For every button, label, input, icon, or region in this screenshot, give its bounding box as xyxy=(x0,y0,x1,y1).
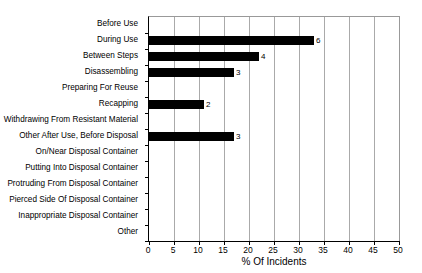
category-label: Recapping xyxy=(99,96,138,112)
x-axis-title: % Of Incidents xyxy=(148,256,400,267)
category-label: Withdrawing From Resistant Material xyxy=(4,112,138,128)
x-axis-tick-label: 20 xyxy=(243,244,252,256)
bar xyxy=(149,36,314,45)
x-axis-tick-label: 25 xyxy=(268,244,277,256)
bar xyxy=(149,100,204,109)
bar xyxy=(149,132,234,141)
bar-row xyxy=(149,161,399,177)
bar-row xyxy=(149,209,399,225)
x-axis-tick-label: 35 xyxy=(318,244,327,256)
x-axis-tick-label: 10 xyxy=(193,244,202,256)
category-label: During Use xyxy=(97,32,138,48)
bar-value-label: 3 xyxy=(236,66,240,79)
x-axis-tick-label: 45 xyxy=(368,244,377,256)
bar-value-label: 4 xyxy=(261,50,265,63)
category-label: Pierced Side Of Disposal Container xyxy=(9,192,138,208)
category-label: Preparing For Reuse xyxy=(62,80,138,96)
category-label: Putting Into Disposal Container xyxy=(25,160,138,176)
bar-row: 2 xyxy=(149,97,399,113)
bar-row xyxy=(149,113,399,129)
category-label: Inappropriate Disposal Container xyxy=(18,208,138,224)
bar-row: 4 xyxy=(149,49,399,65)
bar-value-label: 6 xyxy=(316,34,320,47)
bar-row xyxy=(149,17,399,33)
category-label: On/Near Disposal Container xyxy=(36,144,138,160)
plot-area: 64323 xyxy=(148,16,400,242)
bar-row: 3 xyxy=(149,65,399,81)
x-axis-tick-label: 40 xyxy=(343,244,352,256)
bar xyxy=(149,52,259,61)
x-axis-tick-label: 30 xyxy=(293,244,302,256)
category-label: Before Use xyxy=(97,16,138,32)
category-label: Other After Use, Before Disposal xyxy=(19,128,138,144)
chart-page: Before UseDuring UseBetween StepsDisasse… xyxy=(0,0,422,273)
bar-row xyxy=(149,193,399,209)
x-axis-tick-label: 50 xyxy=(393,244,402,256)
bar-value-label: 2 xyxy=(206,98,210,111)
category-label: Other xyxy=(118,224,138,240)
x-axis-tick-label: 5 xyxy=(171,244,176,256)
bar-row xyxy=(149,81,399,97)
bar-row: 6 xyxy=(149,33,399,49)
category-label: Protruding From Disposal Container xyxy=(7,176,138,192)
category-label: Between Steps xyxy=(83,48,138,64)
y-axis-tick xyxy=(145,241,149,242)
category-label: Disassembling xyxy=(85,64,138,80)
x-axis-tick-label: 0 xyxy=(146,244,151,256)
bar-value-label: 3 xyxy=(236,130,240,143)
bar-row xyxy=(149,145,399,161)
bar-row xyxy=(149,177,399,193)
category-axis-labels: Before UseDuring UseBetween StepsDisasse… xyxy=(0,16,143,240)
bar-row xyxy=(149,225,399,241)
x-axis-tick-label: 15 xyxy=(218,244,227,256)
bar-row: 3 xyxy=(149,129,399,145)
bar xyxy=(149,68,234,77)
